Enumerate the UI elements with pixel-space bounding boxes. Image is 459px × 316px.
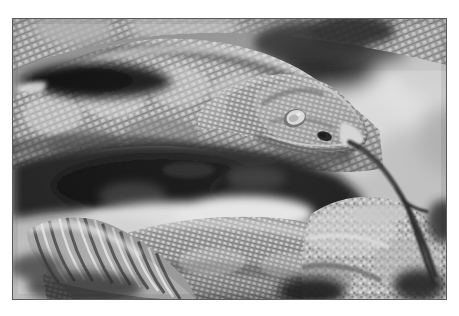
screenshot-root: Black and white photograph of a coiled r… — [0, 0, 459, 316]
photo-grain — [13, 19, 446, 299]
photo-frame: Black and white photograph of a coiled r… — [12, 18, 447, 300]
rattlesnake-photograph: Black and white photograph of a coiled r… — [13, 19, 446, 299]
